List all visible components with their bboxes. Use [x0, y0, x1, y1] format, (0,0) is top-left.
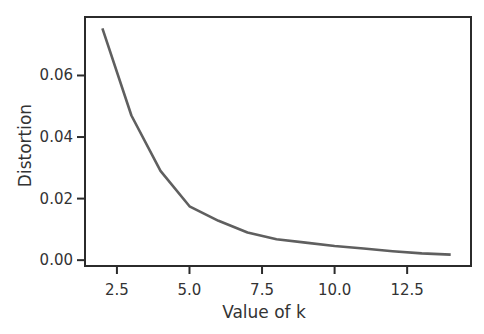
y-tick-label: 0.02	[40, 190, 73, 208]
x-tick-label: 2.5	[105, 281, 129, 299]
y-tick-label: 0.00	[40, 251, 73, 269]
axes-frame	[85, 17, 471, 266]
x-axis-label: Value of k	[222, 302, 306, 322]
y-axis-ticks: 0.000.020.040.06	[40, 66, 85, 269]
y-axis-label: Distortion	[15, 104, 35, 187]
x-tick-label: 7.5	[250, 281, 274, 299]
y-tick-label: 0.04	[40, 128, 73, 146]
x-axis-ticks: 2.55.07.510.012.5	[105, 266, 424, 299]
x-tick-label: 10.0	[318, 281, 351, 299]
x-tick-label: 12.5	[390, 281, 423, 299]
y-tick-label: 0.06	[40, 66, 73, 84]
x-tick-label: 5.0	[178, 281, 202, 299]
distortion-line	[102, 28, 450, 254]
distortion-elbow-chart: 2.55.07.510.012.5 0.000.020.040.06 Value…	[0, 0, 484, 334]
